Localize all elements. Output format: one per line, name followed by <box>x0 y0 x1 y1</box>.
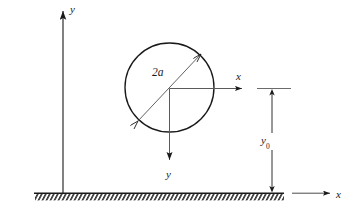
height-subscript: 0 <box>266 142 270 151</box>
diameter-label: 2a <box>152 67 164 79</box>
ground-plane <box>34 193 284 200</box>
diagram-vector-layer <box>0 0 354 219</box>
global-y-axis-label: y <box>70 4 75 15</box>
local-axes <box>170 89 243 161</box>
ground-hatching <box>35 194 284 201</box>
local-x-axis-label: x <box>236 71 241 82</box>
global-x-axis-label: x <box>336 189 341 200</box>
local-y-axis-label: y <box>166 169 171 180</box>
height-dimension-label: y0 <box>261 135 270 149</box>
figure-canvas: y x x y 2a y0 <box>0 0 354 219</box>
